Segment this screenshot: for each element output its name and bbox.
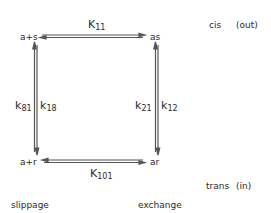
rate-k12: k12 bbox=[161, 100, 178, 115]
slippage-label: slippage bbox=[11, 200, 49, 210]
node-a-plus-s: a+s bbox=[20, 32, 38, 42]
rate-k21: k21 bbox=[135, 100, 152, 115]
right-transition-arrows bbox=[154, 42, 160, 155]
rate-k101: K101 bbox=[90, 168, 113, 183]
rate-k11: K11 bbox=[88, 19, 105, 34]
node-a-plus-r: a+r bbox=[20, 157, 37, 167]
exchange-label: exchange bbox=[138, 200, 182, 210]
out-label: (out) bbox=[236, 20, 258, 30]
top-equilibrium-arrows bbox=[40, 33, 145, 39]
cis-label: cis bbox=[209, 20, 221, 30]
in-label: (in) bbox=[236, 181, 251, 191]
left-transition-arrows bbox=[33, 42, 39, 155]
rate-k18: k18 bbox=[40, 100, 57, 115]
trans-label: trans bbox=[206, 181, 229, 191]
rate-k81: k81 bbox=[15, 100, 32, 115]
node-as: as bbox=[150, 32, 160, 42]
bottom-equilibrium-arrows bbox=[42, 158, 145, 164]
node-ar: ar bbox=[150, 157, 159, 167]
